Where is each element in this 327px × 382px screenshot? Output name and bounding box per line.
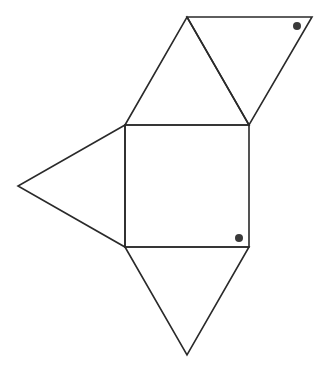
upper-right-triangle (187, 17, 312, 125)
dot-marker (293, 22, 301, 30)
pyramid-net-diagram (0, 0, 327, 382)
bottom-triangle (125, 247, 249, 355)
left-triangle (18, 125, 125, 247)
top-triangle (125, 17, 249, 125)
square-base (125, 125, 249, 247)
dot-marker (235, 234, 243, 242)
